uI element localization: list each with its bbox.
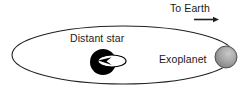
label-exoplanet: Exoplanet [159, 54, 207, 65]
exoplanet-diagram: To Earth Distant star Exoplanet [0, 0, 243, 96]
exoplanet-body [202, 46, 237, 68]
diagram-canvas [0, 0, 243, 96]
stellar-wobble-orbit [98, 55, 126, 67]
label-distant-star: Distant star [70, 33, 124, 44]
label-to-earth: To Earth [170, 3, 210, 14]
to-earth-arrow-icon [194, 17, 219, 22]
